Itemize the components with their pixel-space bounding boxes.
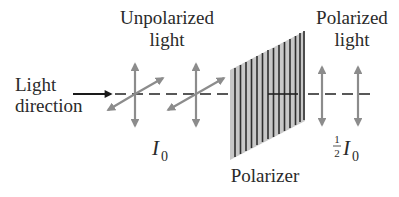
svg-text:I: I <box>151 136 160 160</box>
light-direction-label-line2: direction <box>15 95 83 116</box>
svg-text:0: 0 <box>161 149 168 164</box>
svg-text:2: 2 <box>334 147 340 159</box>
intensity-in-label: I 0 <box>151 136 168 164</box>
unpolarized-vector-1-icon <box>108 64 163 126</box>
unpolarized-label-line1: Unpolarized <box>120 7 214 28</box>
polarized-label-line2: light <box>335 29 371 50</box>
unpolarized-label-line2: light <box>150 29 186 50</box>
light-direction-label-line1: Light <box>15 74 57 95</box>
polarization-diagram: Unpolarized light Polarized light Light … <box>0 0 399 197</box>
polarized-label-line1: Polarized <box>316 7 388 28</box>
svg-text:I: I <box>342 136 351 160</box>
intensity-out-label: 1 2 I 0 <box>333 133 359 164</box>
unpolarized-vector-2-icon <box>168 64 224 126</box>
svg-text:0: 0 <box>352 149 359 164</box>
svg-text:1: 1 <box>334 133 340 145</box>
polarizer-icon <box>230 31 305 160</box>
polarizer-label: Polarizer <box>231 165 300 186</box>
